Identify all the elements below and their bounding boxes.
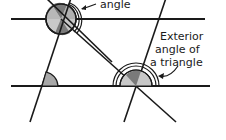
exterior-label-line3: a triangle	[150, 56, 203, 69]
geometry-diagram: angle Exterior angle of a triangle	[0, 0, 226, 140]
interior-angle-shade	[42, 72, 58, 86]
exterior-label-line2: angle of	[155, 43, 201, 56]
exterior-label-line1: Exterior	[160, 30, 204, 43]
angle-label: angle	[100, 0, 131, 11]
